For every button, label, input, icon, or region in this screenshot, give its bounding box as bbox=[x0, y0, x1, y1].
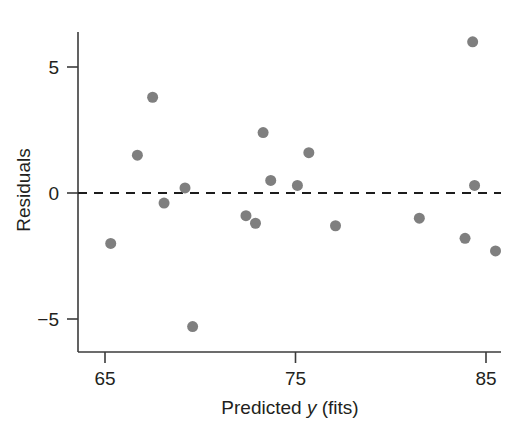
data-point bbox=[187, 321, 198, 332]
data-point bbox=[105, 238, 116, 249]
y-tick-label-−5: −5 bbox=[37, 309, 59, 330]
data-point bbox=[467, 36, 478, 47]
data-point bbox=[303, 147, 314, 158]
data-point bbox=[490, 245, 501, 256]
data-point bbox=[180, 182, 191, 193]
data-point bbox=[250, 218, 261, 229]
data-point bbox=[132, 150, 143, 161]
y-tick-label-5: 5 bbox=[48, 57, 59, 78]
data-point bbox=[240, 210, 251, 221]
y-axis-tick-labels: −505 bbox=[37, 57, 59, 330]
x-axis-ticks bbox=[105, 352, 486, 363]
x-tick-label-85: 85 bbox=[475, 368, 496, 389]
y-axis-ticks bbox=[67, 67, 78, 319]
x-axis-tick-labels: 657585 bbox=[94, 368, 496, 389]
scatter-plot-canvas: 657585 −505 Predicted y (fits) Residuals bbox=[0, 0, 523, 441]
data-point bbox=[147, 92, 158, 103]
data-point bbox=[258, 127, 269, 138]
x-tick-label-75: 75 bbox=[285, 368, 306, 389]
data-point bbox=[460, 233, 471, 244]
data-point bbox=[265, 175, 276, 186]
data-point bbox=[330, 220, 341, 231]
data-point bbox=[292, 180, 303, 191]
x-tick-label-65: 65 bbox=[94, 368, 115, 389]
x-axis-label: Predicted y (fits) bbox=[221, 397, 358, 418]
data-point bbox=[159, 198, 170, 209]
data-point bbox=[414, 213, 425, 224]
data-point bbox=[469, 180, 480, 191]
residual-plot-figure: 657585 −505 Predicted y (fits) Residuals bbox=[0, 0, 523, 441]
y-axis-label: Residuals bbox=[13, 148, 34, 231]
data-point-group bbox=[105, 36, 501, 332]
y-tick-label-0: 0 bbox=[48, 183, 59, 204]
